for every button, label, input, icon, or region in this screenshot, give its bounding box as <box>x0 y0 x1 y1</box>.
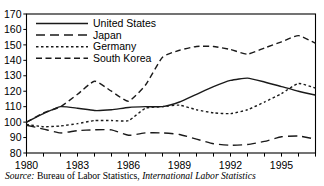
y-tick-label: 100 <box>4 116 22 128</box>
y-tick-label: 110 <box>5 100 22 112</box>
y-tick-label: 170 <box>4 8 22 20</box>
y-tick-label: 140 <box>4 54 22 66</box>
y-tick-label: 90 <box>10 131 22 143</box>
legend-label-united-states: United States <box>93 17 156 29</box>
y-axis: 8090100110120130140150160170 <box>4 8 27 159</box>
series-line-south-korea <box>27 36 316 122</box>
y-tick-label: 120 <box>4 85 22 97</box>
x-axis: 198019831986198919921995 <box>15 153 316 171</box>
source-agency: Bureau of Labor Statistics, <box>34 170 139 181</box>
legend: United StatesJapanGermanySouth Korea <box>36 17 156 64</box>
y-tick-label: 80 <box>10 147 22 159</box>
series-group <box>27 36 316 146</box>
line-chart: 8090100110120130140150160170198019831986… <box>0 0 324 186</box>
source-caption: Source: Bureau of Labor Statistics, Inte… <box>5 170 324 182</box>
y-tick-label: 150 <box>4 39 22 51</box>
legend-label-germany: Germany <box>93 40 137 52</box>
series-line-japan <box>27 125 316 145</box>
legend-label-south-korea: South Korea <box>93 52 152 64</box>
legend-label-japan: Japan <box>93 29 122 41</box>
source-publication: International Labor Statistics <box>140 170 256 181</box>
y-tick-label: 160 <box>4 23 22 35</box>
y-tick-label: 130 <box>4 69 22 81</box>
chart-figure: 8090100110120130140150160170198019831986… <box>0 0 324 186</box>
source-prefix: Source: <box>5 170 34 181</box>
